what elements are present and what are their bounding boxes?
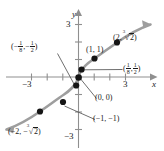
point-label-pos-eighth: (18,12) — [123, 62, 140, 76]
point-label-two-cbrt2: (2, 3√2) — [113, 33, 137, 42]
data-point-one — [91, 55, 97, 61]
radical-index: 3 — [27, 123, 30, 128]
leader-line-neg-one — [65, 106, 96, 120]
cube-root-radical-icon: 3√2 — [124, 33, 134, 42]
data-point-neg-eighth — [73, 82, 79, 88]
fraction-one-eighth: 18 — [126, 62, 131, 76]
fraction-one-half: 12 — [30, 40, 35, 54]
x-tick-label-neg3: −3 — [22, 80, 32, 89]
data-point-neg1 — [60, 99, 66, 105]
y-axis-arrowhead-icon — [75, 9, 82, 16]
y-axis-label: y — [72, 10, 76, 19]
y-tick-label-3: 3 — [66, 20, 71, 29]
point-label-neg-eighth: (−18,−12) — [11, 40, 37, 54]
point-label-neg-two-cbrt2: (−2, −3√2) — [8, 127, 41, 136]
fraction-denominator: 2 — [30, 46, 35, 53]
fraction-denominator: 8 — [126, 68, 131, 75]
data-point-pos-eighth — [79, 66, 85, 72]
fraction-denominator: 2 — [133, 68, 138, 75]
radicand: 2 — [33, 127, 38, 136]
point-label-origin: (0, 0) — [95, 94, 112, 102]
paren-open-text: (2, — [113, 33, 124, 42]
paren-close-text: ) — [38, 127, 41, 136]
y-tick-label-neg3: −3 — [64, 132, 74, 141]
cube-root-function-graph: y x 3 −3 −3 3 (−18,−12) (1, 1) (2, 3√2) … — [0, 0, 164, 151]
data-point-neg2 — [37, 108, 43, 114]
radical-index: 3 — [123, 29, 126, 34]
fraction-denominator: 8 — [18, 46, 23, 53]
cube-root-radical-icon: 3√2 — [28, 127, 38, 136]
leader-line-neg-eighth — [58, 54, 75, 85]
paren-close-text: ) — [134, 33, 137, 42]
point-label-neg-one: (−1, −1) — [93, 115, 119, 123]
paren-open-text: (−2, − — [8, 127, 28, 136]
data-point-origin — [75, 74, 82, 81]
x-tick-label-3: 3 — [123, 80, 128, 89]
paren-close: ) — [35, 42, 38, 51]
point-label-one-one: (1, 1) — [86, 46, 103, 54]
x-axis-label: x — [152, 80, 156, 89]
fraction-one-half: 12 — [133, 62, 138, 76]
radicand: 2 — [129, 33, 134, 42]
paren-close: ) — [138, 64, 141, 73]
leader-lines-group — [58, 54, 123, 120]
fraction-one-eighth: 18 — [18, 40, 23, 54]
